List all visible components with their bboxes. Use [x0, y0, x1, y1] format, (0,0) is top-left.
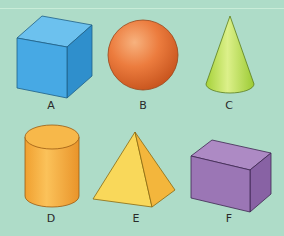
cone-shape: [206, 16, 254, 93]
label-f: F: [219, 212, 239, 225]
label-c: C: [219, 99, 239, 112]
cuboid-shape: [191, 140, 271, 212]
label-b: B: [133, 99, 153, 112]
label-e: E: [126, 212, 146, 225]
pyramid-shape: [93, 132, 175, 207]
shapes-diagram: [0, 0, 284, 236]
cylinder-shape: [25, 125, 79, 207]
label-d: D: [41, 212, 61, 225]
sphere-shape: [108, 20, 178, 90]
cube-shape: [17, 16, 92, 98]
label-a: A: [41, 99, 61, 112]
